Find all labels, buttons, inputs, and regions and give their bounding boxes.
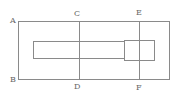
outer-rectangle: [19, 22, 170, 80]
label-a: A: [9, 16, 16, 25]
label-d: D: [74, 82, 80, 91]
label-c: C: [74, 9, 80, 18]
label-b: B: [10, 75, 16, 84]
label-f: F: [136, 83, 142, 92]
label-e: E: [136, 8, 142, 17]
geometry-diagram: A B C D E F: [0, 0, 178, 94]
